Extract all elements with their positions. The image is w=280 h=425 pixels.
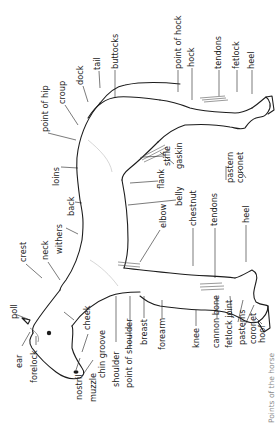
label-hock: hock	[186, 47, 196, 67]
buttocks-line	[88, 97, 160, 118]
tail-shape	[100, 83, 180, 103]
label-forelock: forelock	[29, 350, 39, 383]
label-coronet-hind: coronet	[235, 151, 245, 183]
label-breast: breast	[139, 318, 149, 345]
label-dock: dock	[75, 65, 85, 85]
label-pasterns: pasterns	[237, 310, 247, 345]
label-buttocks: buttocks	[110, 34, 120, 69]
label-heel-fore: heel	[241, 205, 251, 223]
label-hoof: hoof	[257, 324, 267, 343]
label-knee: knee	[191, 328, 201, 348]
neck-crest	[33, 290, 60, 333]
label-nostril: nostril	[74, 374, 84, 400]
nostril-mark	[74, 370, 79, 374]
label-fetlock-hind: fetlock	[231, 41, 241, 69]
figure-caption: Points of the horse	[267, 352, 276, 423]
label-ear: ear	[14, 354, 24, 368]
horse-points-diagram: point of hip croup dock tail buttocks po…	[0, 0, 280, 425]
label-point-of-hip: point of hip	[40, 85, 50, 132]
label-elbow: elbow	[158, 203, 168, 228]
hock-tendon-shading	[200, 96, 228, 102]
hip-contour	[88, 140, 112, 172]
label-neck: neck	[40, 240, 50, 260]
topline	[60, 103, 100, 290]
label-shoulder: shoulder	[111, 351, 121, 387]
label-gaskin: gaskin	[174, 142, 184, 169]
fore-leg-upper	[124, 268, 235, 278]
label-cheek: cheek	[82, 305, 92, 330]
label-tendons-fore: tendons	[209, 193, 219, 226]
hind-leg-lower	[158, 97, 270, 142]
label-cannon-bone: cannon bone	[211, 295, 221, 348]
label-forearm: forearm	[157, 318, 167, 350]
label-pastern: pastern	[225, 152, 235, 183]
label-chestnut: chestnut	[188, 189, 198, 226]
label-point-of-shoulder: point of shoulder	[124, 318, 134, 388]
eye	[47, 331, 51, 335]
label-tail: tail	[92, 57, 102, 70]
label-fetlock-joint: fetlock joint	[224, 299, 234, 348]
label-heel-hind: heel	[246, 51, 256, 69]
label-stifle: stifle	[162, 146, 172, 166]
label-point-of-hock: point of hock	[173, 15, 183, 69]
stifle-line	[122, 142, 158, 180]
label-muzzle: muzzle	[88, 373, 98, 402]
shoulder-contour	[90, 260, 118, 286]
labels: point of hip croup dock tail buttocks po…	[9, 15, 267, 402]
label-crest: crest	[18, 241, 28, 262]
label-belly: belly	[174, 186, 184, 206]
label-croup: croup	[57, 81, 67, 104]
label-withers: withers	[54, 224, 64, 254]
fore-tendon-shading	[200, 283, 224, 290]
label-loins: loins	[51, 167, 61, 186]
belly-line	[122, 180, 128, 268]
ear-shape	[22, 318, 30, 324]
label-chin-groove: chin groove	[97, 330, 107, 378]
label-back: back	[66, 196, 76, 216]
label-tendons-hind: tendons	[213, 36, 223, 69]
label-poll: poll	[9, 304, 19, 319]
label-flank: flank	[156, 169, 166, 189]
elbow-shading	[118, 262, 140, 267]
